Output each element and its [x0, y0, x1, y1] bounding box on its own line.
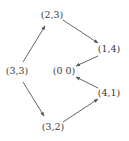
edge-23-to-14 — [63, 20, 98, 43]
edge-32-to-41 — [63, 99, 98, 122]
edge-41-to-00 — [76, 77, 98, 88]
edge-14-to-00 — [76, 56, 98, 66]
node-3-2: (3,2) — [42, 121, 65, 132]
node-1-4: (1,4) — [98, 43, 121, 54]
node-0-0: (0 0) — [53, 65, 76, 76]
node-3-3: (3,3) — [6, 65, 29, 76]
state-graph: (3,3) (2,3) (1,4) (0 0) (4,1) (3,2) — [0, 0, 129, 141]
node-4-1: (4,1) — [98, 87, 121, 98]
edge-33-to-32 — [23, 82, 44, 116]
node-2-3: (2,3) — [41, 9, 64, 20]
edge-33-to-23 — [23, 26, 45, 62]
